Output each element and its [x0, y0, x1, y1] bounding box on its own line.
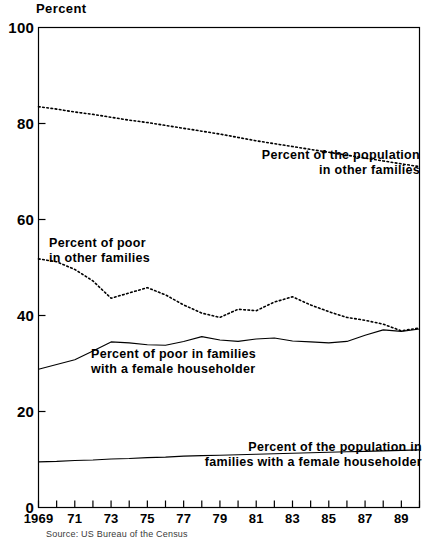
x-tick-label-1989: 89 [394, 511, 409, 526]
x-tick-label-1985: 85 [321, 511, 336, 526]
annotation-line: in other families [0, 163, 420, 178]
annot-poor-female-householder: Percent of poor in familieswith a female… [91, 347, 256, 377]
x-tick-label-1975: 75 [140, 511, 155, 526]
y-tick-label: 60 [2, 211, 34, 228]
x-tick-label-1981: 81 [249, 511, 264, 526]
x-tick-label-1969: 1969 [24, 511, 54, 526]
y-axis-unit-label: Percent [36, 1, 87, 16]
x-tick-label-1971: 71 [67, 511, 82, 526]
x-tick-label-1987: 87 [358, 511, 373, 526]
y-tick-label: 80 [2, 115, 34, 132]
annotation-line: families with a female householder [0, 455, 422, 470]
y-tick-label: 20 [2, 403, 34, 420]
annotation-line: Percent of the population [0, 148, 420, 163]
annot-population-other-families: Percent of the populationin other famili… [0, 148, 420, 178]
x-tick-label-1983: 83 [285, 511, 300, 526]
annotation-line: Percent of poor [49, 236, 150, 251]
source-note: Source: US Bureau of the Census [46, 529, 188, 537]
annotation-line: with a female householder [91, 362, 256, 377]
annotation-line: Percent of the population in [0, 440, 422, 455]
annot-poor-other-families: Percent of poorin other families [49, 236, 150, 266]
x-tick-label-1979: 79 [212, 511, 227, 526]
x-tick-label-1973: 73 [104, 511, 119, 526]
annotation-line: in other families [49, 251, 150, 266]
annotation-line: Percent of poor in families [91, 347, 256, 362]
annot-population-female-householder: Percent of the population infamilies wit… [0, 440, 422, 470]
plot-frame-border [39, 28, 420, 508]
poverty-family-type-line-chart: Percent 020406080100 1969717375777981838… [0, 0, 432, 537]
x-tick-label-1977: 77 [176, 511, 191, 526]
y-tick-label: 100 [2, 19, 34, 36]
y-tick-label: 40 [2, 307, 34, 324]
